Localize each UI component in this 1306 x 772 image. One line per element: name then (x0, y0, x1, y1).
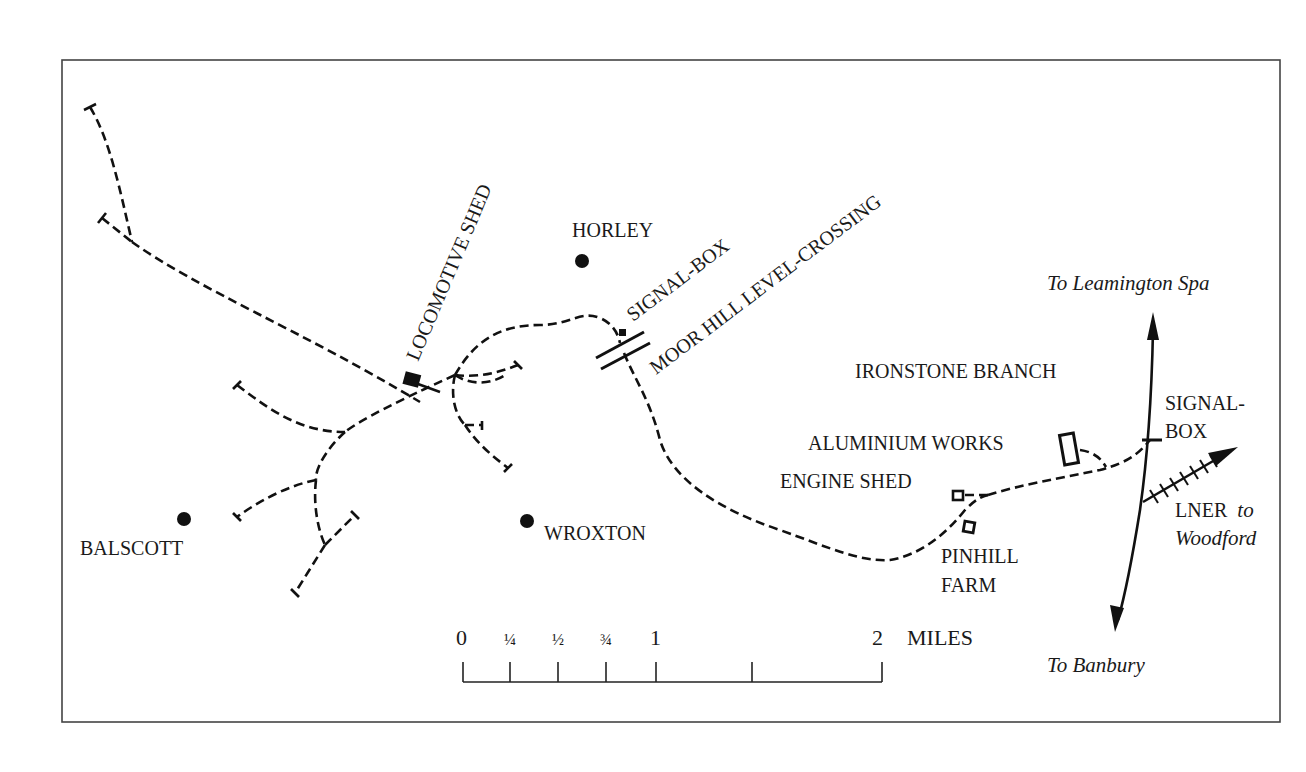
shed-spur (418, 384, 440, 392)
arrow-south-icon (1110, 605, 1124, 632)
arrow-northeast-icon (1208, 447, 1238, 466)
pinhill-farm-icon (963, 521, 975, 533)
label-lner: LNER to (1175, 498, 1254, 522)
ironstone-branch-map: LOCOMOTIVE SHED HORLEY SIGNAL-BOX MOOR H… (0, 0, 1306, 772)
label-locomotive-shed: LOCOMOTIVE SHED (401, 181, 495, 364)
scale-tick-three-quarter: ¾ (600, 631, 612, 648)
label-pinhill-1: PINHILL (941, 545, 1019, 567)
engine-shed-icon (953, 491, 963, 500)
main-line-gwr (1118, 330, 1153, 620)
label-balscott: BALSCOTT (80, 537, 183, 559)
wroxton-dot-icon (520, 514, 534, 528)
label-engine-shed: ENGINE SHED (780, 470, 912, 492)
label-to-leamington-spa: To Leamington Spa (1047, 271, 1210, 295)
ironstone-tracks (90, 107, 1150, 593)
scale-bar: 0 ¼ ½ ¾ 1 2 MILES (456, 625, 973, 682)
label-signal-box-junction-1: SIGNAL- (1165, 392, 1245, 414)
scale-unit: MILES (907, 625, 973, 650)
aluminium-works-icon (1060, 433, 1079, 465)
scale-tick-quarter: ¼ (504, 631, 516, 648)
horley-dot-icon (575, 254, 589, 268)
label-to-banbury: To Banbury (1047, 653, 1146, 677)
label-signal-box-junction-2: BOX (1165, 420, 1208, 442)
buffer-stops (84, 104, 522, 597)
map-frame (62, 60, 1280, 722)
label-woodford: Woodford (1175, 526, 1257, 550)
balscott-dot-icon (177, 512, 191, 526)
scale-tick-1: 1 (650, 625, 661, 650)
arrow-north-icon (1147, 312, 1159, 340)
scale-tick-0: 0 (456, 625, 467, 650)
label-aluminium-works: ALUMINIUM WORKS (808, 432, 1004, 454)
lner-line (1143, 447, 1238, 503)
signal-box-moor-hill-icon (619, 329, 626, 336)
label-wroxton: WROXTON (544, 522, 646, 544)
label-pinhill-2: FARM (941, 574, 996, 596)
label-horley: HORLEY (572, 219, 653, 241)
scale-tick-half: ½ (552, 631, 564, 648)
scale-tick-2: 2 (872, 625, 883, 650)
label-ironstone-branch: IRONSTONE BRANCH (855, 360, 1056, 382)
level-crossing-icon (596, 332, 650, 369)
